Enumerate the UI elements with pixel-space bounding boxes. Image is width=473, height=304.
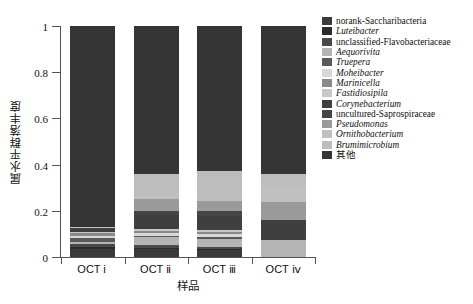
legend-item[interactable]: Pseudomonas <box>322 119 472 129</box>
bar-segment <box>197 250 242 257</box>
plot-area: 00.20.40.60.81 <box>60 26 315 258</box>
legend-swatch <box>322 141 332 149</box>
y-axis-title-text: 属水平群落丰度 <box>8 100 24 184</box>
bar-segment <box>261 187 306 202</box>
legend-swatch <box>322 38 332 46</box>
stacked-bar <box>70 26 115 257</box>
x-axis-title: 样品 <box>60 277 315 293</box>
legend-swatch <box>322 27 332 35</box>
legend-swatch <box>322 17 332 25</box>
chart-figure: 属水平群落丰度 00.20.40.60.81 OCT ⅰOCT ⅱOCT ⅲOC… <box>0 0 473 304</box>
y-tick-label: 0.8 <box>34 67 48 79</box>
legend-item[interactable]: unclassified-Flavobacteriaceae <box>322 37 472 47</box>
y-tick-label: 0.2 <box>34 206 48 218</box>
legend-item[interactable]: Fastidiosipila <box>322 88 472 98</box>
x-tick-label: OCT ⅱ <box>133 258 178 276</box>
bar-segment <box>197 239 242 247</box>
x-axis-labels: OCT ⅰOCT ⅱOCT ⅲOCT ⅳ <box>60 258 315 276</box>
bar-segment <box>261 174 306 187</box>
x-axis-title-text: 样品 <box>177 279 199 293</box>
legend-item[interactable]: Marinicella <box>322 78 472 88</box>
legend-item[interactable]: Truepera <box>322 57 472 67</box>
bar-segment <box>197 26 242 171</box>
legend-swatch <box>322 100 332 108</box>
legend-item[interactable]: Corynebacterium <box>322 98 472 108</box>
x-tick-label: OCT ⅰ <box>69 258 114 276</box>
legend-swatch <box>322 110 332 118</box>
bar-segment <box>70 26 115 227</box>
legend-swatch <box>322 89 332 97</box>
legend-swatch <box>322 120 332 128</box>
legend-item[interactable]: Luteibacter <box>322 26 472 36</box>
y-tick-label: 0.6 <box>34 113 48 125</box>
bar-segment <box>261 26 306 174</box>
legend-label: Pseudomonas <box>336 119 388 129</box>
y-tick: 0.4 <box>52 165 60 166</box>
legend-item[interactable]: Ornithobacterium <box>322 129 472 139</box>
legend-item[interactable]: 其他 <box>322 150 472 160</box>
legend-swatch <box>322 69 332 77</box>
stacked-bar <box>197 26 242 257</box>
legend-label: norank-Saccharibacteria <box>336 16 426 26</box>
bar-segment <box>134 26 179 174</box>
y-tick: 1 <box>52 26 60 27</box>
legend-swatch <box>322 48 332 56</box>
bar-segment <box>134 249 179 257</box>
bar-segment <box>261 202 306 220</box>
legend-label: uncultured-Saprospiraceae <box>336 109 435 119</box>
y-tick: 0.6 <box>52 118 60 119</box>
bar-segment <box>134 237 179 245</box>
legend-swatch <box>322 130 332 138</box>
y-tick: 0.8 <box>52 72 60 73</box>
legend-label: unclassified-Flavobacteriaceae <box>336 37 451 47</box>
bar-segment <box>197 216 242 230</box>
bars-container <box>61 26 315 257</box>
chart-legend: norank-SaccharibacteriaLuteibacterunclas… <box>322 16 472 160</box>
legend-label: Aequorivita <box>336 47 380 57</box>
legend-swatch <box>322 151 332 159</box>
legend-label: Moheibacter <box>336 68 384 78</box>
y-axis-title: 属水平群落丰度 <box>8 26 24 258</box>
legend-item[interactable]: Aequorivita <box>322 47 472 57</box>
x-tick-label: OCT ⅳ <box>261 258 306 276</box>
bar-segment <box>261 220 306 240</box>
bar-segment <box>134 174 179 196</box>
y-tick-label: 0.4 <box>34 160 48 172</box>
bar-segment <box>197 201 242 211</box>
bar-segment <box>261 240 306 257</box>
legend-label: Fastidiosipila <box>336 88 388 98</box>
bar-segment <box>134 199 179 212</box>
legend-item[interactable]: Moheibacter <box>322 67 472 77</box>
bar-segment <box>134 215 179 229</box>
legend-item[interactable]: uncultured-Saprospiraceae <box>322 109 472 119</box>
legend-label: 其他 <box>336 150 356 160</box>
y-tick-label: 1 <box>43 21 49 33</box>
stacked-bar <box>261 26 306 257</box>
legend-label: Luteibacter <box>336 26 379 36</box>
x-tick <box>315 257 316 264</box>
y-tick: 0.2 <box>52 211 60 212</box>
legend-label: Corynebacterium <box>336 99 401 109</box>
legend-swatch <box>322 58 332 66</box>
bar-segment <box>70 249 115 257</box>
bar-segment <box>197 171 242 199</box>
legend-item[interactable]: norank-Saccharibacteria <box>322 16 472 26</box>
legend-label: Ornithobacterium <box>336 129 403 139</box>
legend-swatch <box>322 79 332 87</box>
y-tick: 0 <box>52 257 60 258</box>
legend-label: Marinicella <box>336 78 380 88</box>
y-tick-label: 0 <box>43 252 49 264</box>
x-tick-label: OCT ⅲ <box>197 258 242 276</box>
stacked-bar <box>134 26 179 257</box>
legend-label: Truepera <box>336 57 370 67</box>
